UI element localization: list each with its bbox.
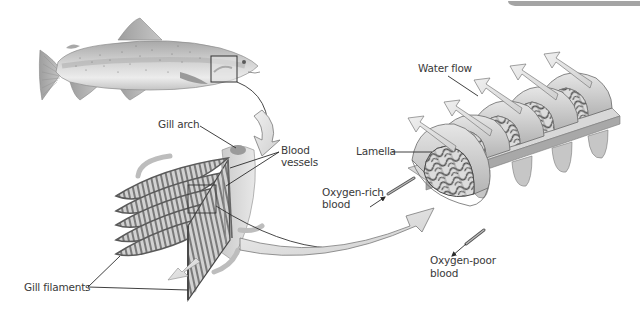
label-oxygen-rich-1: Oxygen-rich xyxy=(322,186,384,198)
gill-highlight-box xyxy=(211,56,237,82)
label-blood-vessels-1: Blood xyxy=(281,144,310,156)
label-lamella: Lamella xyxy=(356,145,396,157)
label-gill-arch: Gill arch xyxy=(158,118,199,130)
label-oxygen-poor-2: blood xyxy=(430,267,458,279)
label-oxygen-rich-2: blood xyxy=(322,198,350,210)
top-bar xyxy=(508,1,640,6)
label-water-flow: Water flow xyxy=(418,62,473,74)
zoom-arrow-fish-to-gill xyxy=(237,82,280,156)
label-oxygen-poor-1: Oxygen-poor xyxy=(430,254,497,266)
gill-arch-illustration xyxy=(116,145,262,300)
label-blood-vessels-2: vessels xyxy=(281,156,318,168)
label-gill-filaments: Gill filaments xyxy=(24,281,90,293)
fish-gill-diagram: Gill arch Blood vessels Gill filaments W… xyxy=(0,0,640,309)
fish-illustration xyxy=(39,18,260,100)
